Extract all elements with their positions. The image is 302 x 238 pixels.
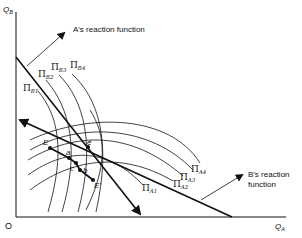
a-reaction-label: A's reaction function xyxy=(73,26,145,34)
point-c-label: c xyxy=(70,165,74,173)
point-e-label: E xyxy=(43,139,48,147)
point-e-lower-label: e xyxy=(87,139,91,147)
point-e-prime-label: E' xyxy=(94,182,101,190)
b-reaction-label-line2: function xyxy=(248,181,276,189)
point-a-label: a xyxy=(66,149,70,157)
point-b-label: b xyxy=(83,167,87,175)
pi-b3-label: ΠB3 xyxy=(51,63,66,74)
y-axis-label: QB xyxy=(3,6,13,16)
x-axis-label: QA xyxy=(275,223,285,233)
reaction-function-diagram xyxy=(0,0,302,238)
pi-b4-label: ΠB4 xyxy=(70,61,85,72)
origin-label: O xyxy=(5,222,12,231)
pi-b1-label: ΠB1 xyxy=(23,84,38,95)
pi-a4-label: ΠA4 xyxy=(191,165,206,176)
b-reaction-pointer xyxy=(201,175,242,200)
b-reaction-label-line1: B's reaction xyxy=(248,171,290,179)
pi-a1-label: ΠA1 xyxy=(142,184,157,195)
